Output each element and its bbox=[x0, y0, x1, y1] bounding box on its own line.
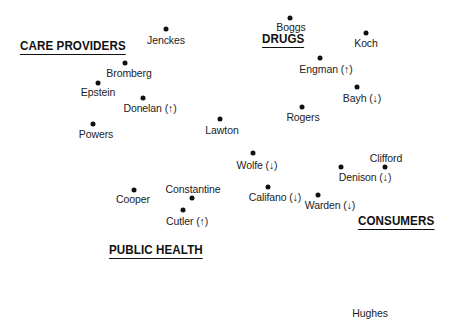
point-label-jenckes: Jenckes bbox=[147, 35, 185, 46]
point-dot-constantine bbox=[190, 196, 195, 201]
point-label-epstein: Epstein bbox=[81, 87, 115, 98]
point-dot-engman bbox=[318, 56, 323, 61]
point-label-wolfe: Wolfe (↓) bbox=[237, 160, 278, 171]
point-dot-bayh bbox=[355, 85, 360, 90]
point-label-powers: Powers bbox=[79, 129, 113, 140]
point-label-hughes: Hughes bbox=[352, 308, 388, 319]
point-dot-denison bbox=[339, 165, 344, 170]
point-dot-powers bbox=[91, 122, 96, 127]
point-dot-clifford bbox=[383, 165, 388, 170]
cropped-header-fragment bbox=[20, 0, 220, 2]
point-label-koch: Koch bbox=[354, 38, 378, 49]
point-dot-donelan bbox=[141, 96, 146, 101]
point-label-califano: Califano (↓) bbox=[249, 192, 302, 203]
point-dot-jenckes bbox=[164, 27, 169, 32]
point-dot-warden bbox=[316, 193, 321, 198]
diagram-canvas: CARE PROVIDERS DRUGS CONSUMERS PUBLIC HE… bbox=[0, 0, 449, 320]
point-dot-wolfe bbox=[251, 151, 256, 156]
point-dot-koch bbox=[364, 31, 369, 36]
point-label-cooper: Cooper bbox=[116, 194, 150, 205]
point-label-boggs: Boggs bbox=[276, 22, 305, 33]
point-label-lawton: Lawton bbox=[205, 125, 238, 136]
point-label-donelan: Donelan (↑) bbox=[123, 103, 176, 114]
point-label-rogers: Rogers bbox=[286, 112, 319, 123]
group-label-drugs: DRUGS bbox=[262, 32, 304, 48]
point-label-clifford: Clifford bbox=[370, 153, 402, 164]
point-label-constantine: Constantine bbox=[166, 184, 221, 195]
point-dot-califano bbox=[266, 185, 271, 190]
point-label-bromberg: Bromberg bbox=[106, 68, 151, 79]
group-label-consumers: CONSUMERS bbox=[358, 214, 434, 230]
point-label-warden: Warden (↓) bbox=[305, 200, 356, 211]
point-dot-cutler bbox=[181, 208, 186, 213]
point-label-bayh: Bayh (↓) bbox=[343, 93, 381, 104]
point-dot-cooper bbox=[132, 188, 137, 193]
point-label-engman: Engman (↑) bbox=[299, 64, 352, 75]
point-dot-epstein bbox=[96, 81, 101, 86]
point-label-denison: Denison (↓) bbox=[339, 172, 392, 183]
point-label-cutler: Cutler (↑) bbox=[166, 216, 208, 227]
group-label-public-health: PUBLIC HEALTH bbox=[109, 243, 203, 259]
point-dot-rogers bbox=[300, 105, 305, 110]
group-label-care-providers: CARE PROVIDERS bbox=[20, 39, 126, 55]
point-dot-lawton bbox=[218, 117, 223, 122]
point-dot-boggs bbox=[288, 16, 293, 21]
point-dot-bromberg bbox=[123, 61, 128, 66]
